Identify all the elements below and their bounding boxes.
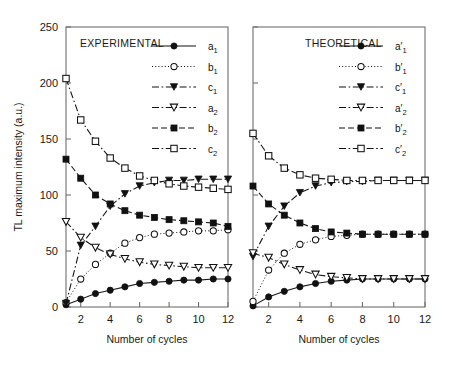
marker-filled-circle xyxy=(297,284,303,290)
marker-filled-circle xyxy=(92,290,98,296)
marker-filled-circle xyxy=(137,280,143,286)
marker-filled-square xyxy=(281,212,287,218)
marker-filled-circle xyxy=(195,277,201,283)
marker-filled-square xyxy=(328,229,334,235)
marker-filled-square xyxy=(313,226,319,232)
marker-filled-circle xyxy=(171,43,177,49)
x-tick-label: 4 xyxy=(297,313,303,325)
marker-open-square xyxy=(250,130,256,136)
marker-filled-square xyxy=(225,223,231,229)
legend-label-subscript: 1 xyxy=(402,46,406,55)
y-tick-label: 0 xyxy=(52,301,58,313)
legend-label-base: a′ xyxy=(395,103,403,114)
marker-open-square xyxy=(359,177,365,183)
marker-filled-square xyxy=(358,125,364,131)
marker-filled-square xyxy=(422,231,428,237)
marker-open-square xyxy=(151,177,157,183)
marker-open-circle xyxy=(297,241,303,247)
marker-filled-square xyxy=(391,231,397,237)
marker-open-square xyxy=(358,145,364,151)
marker-open-square xyxy=(375,177,381,183)
marker-filled-circle xyxy=(107,287,113,293)
marker-filled-square xyxy=(92,192,98,198)
marker-filled-square xyxy=(196,219,202,225)
legend-label-subscript: 2 xyxy=(213,149,217,158)
legend-label-subscript: 1 xyxy=(214,46,218,55)
legend-label-subscript: 1 xyxy=(402,67,406,76)
figure-root: TL maximum intensity (a.u.)0501001502002… xyxy=(0,0,452,384)
marker-filled-circle xyxy=(225,276,231,282)
marker-open-square xyxy=(422,177,428,183)
marker-filled-square xyxy=(250,183,256,189)
y-tick-label: 50 xyxy=(46,245,58,257)
marker-open-circle xyxy=(210,228,216,234)
marker-open-square xyxy=(166,181,172,187)
x-tick-label: 10 xyxy=(192,313,204,325)
x-tick-label: 12 xyxy=(222,313,234,325)
marker-open-square xyxy=(225,186,231,192)
marker-filled-square xyxy=(181,218,187,224)
marker-filled-square xyxy=(137,212,143,218)
marker-open-square xyxy=(391,177,397,183)
marker-filled-circle xyxy=(166,278,172,284)
x-axis-label: Number of cycles xyxy=(298,333,379,345)
marker-filled-square xyxy=(122,208,128,214)
legend-label-subscript: 2 xyxy=(402,108,406,117)
marker-filled-circle xyxy=(358,43,364,49)
marker-filled-circle xyxy=(181,277,187,283)
marker-open-square xyxy=(210,185,216,191)
x-tick-label: 12 xyxy=(419,313,431,325)
marker-open-square xyxy=(195,184,201,190)
legend-label-subscript: 2 xyxy=(214,128,218,137)
plot-frame xyxy=(66,27,228,307)
marker-open-square xyxy=(171,145,177,151)
marker-filled-square xyxy=(375,231,381,237)
x-tick-label: 2 xyxy=(266,313,272,325)
marker-open-circle xyxy=(166,230,172,236)
x-tick-label: 2 xyxy=(78,313,84,325)
marker-open-square xyxy=(78,117,84,123)
tl-intensity-figure: TL maximum intensity (a.u.)0501001502002… xyxy=(0,0,452,384)
marker-open-circle xyxy=(137,234,143,240)
panel-title: EXPERIMENTAL xyxy=(80,37,164,49)
legend-label-subscript: 2 xyxy=(402,149,406,158)
marker-open-circle xyxy=(266,267,272,273)
y-tick-label: 150 xyxy=(40,133,58,145)
marker-filled-square xyxy=(210,220,216,226)
panel-theoretical: 24681012Number of cyclesTHEORETICALa′1b′… xyxy=(249,27,431,345)
marker-open-square xyxy=(312,175,318,181)
marker-open-circle xyxy=(250,298,256,304)
panel-experimental: 05010015020025024681012Number of cyclesE… xyxy=(40,21,234,345)
x-tick-label: 8 xyxy=(359,313,365,325)
x-tick-label: 6 xyxy=(137,313,143,325)
marker-open-circle xyxy=(358,63,364,69)
legend-label-base: b′ xyxy=(395,62,403,73)
marker-open-square xyxy=(136,173,142,179)
marker-filled-circle xyxy=(78,296,84,302)
marker-filled-square xyxy=(151,214,157,220)
marker-open-square xyxy=(406,177,412,183)
y-tick-label: 250 xyxy=(40,21,58,33)
legend-label-subscript: 1 xyxy=(402,87,406,96)
x-tick-label: 10 xyxy=(388,313,400,325)
marker-open-square xyxy=(92,138,98,144)
legend-label-base: b′ xyxy=(395,123,403,134)
marker-filled-square xyxy=(344,230,350,236)
marker-open-square xyxy=(181,183,187,189)
marker-open-circle xyxy=(281,250,287,256)
marker-open-circle xyxy=(122,240,128,246)
marker-filled-circle xyxy=(210,276,216,282)
marker-open-square xyxy=(281,165,287,171)
marker-open-square xyxy=(265,153,271,159)
marker-filled-square xyxy=(107,201,113,207)
y-axis-title: TL maximum intensity (a.u.) xyxy=(12,102,24,231)
x-axis-label: Number of cycles xyxy=(106,333,187,345)
marker-open-square xyxy=(297,172,303,178)
marker-filled-circle xyxy=(266,294,272,300)
legend-label-base: a′ xyxy=(395,41,403,52)
legend-label-subscript: 2 xyxy=(214,108,218,117)
panel-title: THEORETICAL xyxy=(305,37,382,49)
marker-open-circle xyxy=(181,229,187,235)
legend-label-subscript: 2 xyxy=(402,128,406,137)
marker-open-circle xyxy=(171,63,177,69)
